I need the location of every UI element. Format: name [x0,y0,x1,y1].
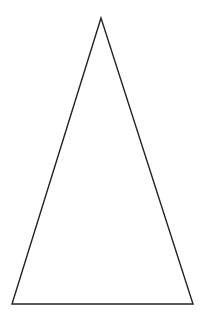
triangle-figure [0,0,212,332]
diagram-canvas [0,0,212,332]
triangle-shape [12,18,193,304]
